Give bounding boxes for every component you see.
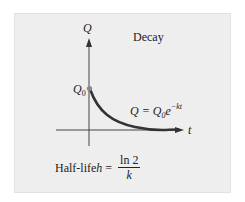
initial-value-label: Q0 bbox=[73, 83, 86, 98]
y-axis-label: Q bbox=[83, 22, 92, 34]
half-life-prefix: Half-life bbox=[55, 162, 96, 174]
half-life-equals: = bbox=[102, 162, 115, 174]
formula-base: e bbox=[165, 104, 170, 118]
fraction-denominator: k bbox=[127, 168, 132, 181]
half-life-fraction: ln 2 k bbox=[118, 154, 140, 181]
fraction-numerator: ln 2 bbox=[118, 154, 140, 168]
x-axis-label: t bbox=[188, 124, 191, 136]
q0-symbol: Q bbox=[73, 82, 82, 96]
decay-formula: Q = Q0e−kt bbox=[130, 104, 182, 120]
diagram-title: Decay bbox=[133, 31, 164, 43]
y-axis-arrow-icon bbox=[86, 38, 92, 47]
half-life-formula: Half-life h = ln 2 k bbox=[55, 154, 140, 181]
formula-exponent: −kt bbox=[171, 102, 182, 111]
q0-subscript: 0 bbox=[82, 89, 86, 98]
formula-lhs: Q = Q bbox=[130, 104, 161, 118]
initial-value-point bbox=[87, 86, 92, 91]
